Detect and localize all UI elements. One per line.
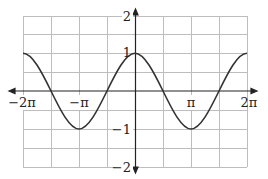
x-label-neg-pi: −π	[69, 95, 89, 110]
y-axis-down-arrow-icon	[133, 167, 138, 173]
x-axis-right-arrow-icon	[251, 89, 257, 94]
cosine-chart: −2π −π π 2π 2 1 −1 −2	[0, 0, 268, 179]
y-axis-up-arrow-icon	[133, 9, 138, 15]
y-label-neg2: −2	[112, 160, 131, 175]
x-label-2pi: 2π	[241, 95, 258, 110]
x-tick-labels: −2π −π π 2π	[8, 95, 258, 110]
y-tick-labels: 2 1 −1 −2	[112, 9, 133, 175]
x-label-neg-2pi: −2π	[8, 95, 36, 110]
y-label-1: 1	[123, 45, 131, 60]
x-axis-left-arrow-icon	[9, 89, 15, 94]
y-label-neg1: −1	[112, 122, 131, 137]
x-label-pi: π	[187, 95, 196, 110]
y-label-2: 2	[123, 9, 131, 24]
